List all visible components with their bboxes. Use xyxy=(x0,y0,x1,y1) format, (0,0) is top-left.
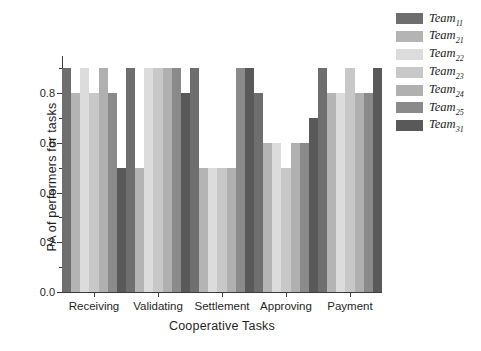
bar-receiving-team21 xyxy=(71,93,80,292)
bar-payment-team21 xyxy=(327,93,336,292)
x-tick-label: Receiving xyxy=(69,300,120,312)
bar-validating-team24 xyxy=(163,68,172,292)
bar-settlement-team31 xyxy=(245,68,254,292)
bar-payment-team25 xyxy=(364,93,373,292)
bar-approving-team23 xyxy=(281,168,290,292)
legend-item-team22[interactable]: Team22 xyxy=(396,46,481,64)
legend-swatch-team25 xyxy=(396,102,423,113)
legend-item-team23[interactable]: Team23 xyxy=(396,63,481,81)
legend-label-team22: Team22 xyxy=(429,46,464,63)
chart-legend: Team11Team21Team22Team23Team24Team25Team… xyxy=(396,10,481,135)
bar-receiving-team11 xyxy=(62,68,71,292)
y-tick-label: 0.8 xyxy=(40,87,55,99)
legend-label-team25: Team25 xyxy=(429,100,464,117)
bar-receiving-team31 xyxy=(117,168,126,292)
bar-settlement-team24 xyxy=(227,168,236,292)
bar-payment-team23 xyxy=(345,68,354,292)
y-tick-label: 0.0 xyxy=(40,286,55,298)
bar-approving-team21 xyxy=(263,143,272,292)
x-tick-label: Approving xyxy=(260,300,312,312)
bar-settlement-team11 xyxy=(190,68,199,292)
x-tick-label: Payment xyxy=(327,300,372,312)
plot-area: 0.00.20.40.60.8ReceivingValidatingSettle… xyxy=(62,56,382,292)
bar-chart-figure: PA of performers for tasks Cooperative T… xyxy=(0,0,481,351)
bar-receiving-team25 xyxy=(108,93,117,292)
legend-item-team25[interactable]: Team25 xyxy=(396,99,481,117)
legend-label-team24: Team24 xyxy=(429,82,464,99)
bar-validating-team31 xyxy=(181,93,190,292)
bar-validating-team22 xyxy=(144,68,153,292)
y-tick-label: 0.6 xyxy=(40,137,55,149)
legend-label-team21: Team21 xyxy=(429,28,464,45)
bar-payment-team31 xyxy=(373,68,382,292)
legend-swatch-team11 xyxy=(396,13,423,24)
x-tick-label: Validating xyxy=(133,300,183,312)
legend-item-team24[interactable]: Team24 xyxy=(396,81,481,99)
legend-label-team31: Team31 xyxy=(429,117,464,134)
bar-approving-team22 xyxy=(272,143,281,292)
bar-payment-team24 xyxy=(355,93,364,292)
x-tick-mark xyxy=(350,292,351,297)
bar-validating-team21 xyxy=(135,168,144,292)
legend-swatch-team24 xyxy=(396,85,423,96)
legend-item-team21[interactable]: Team21 xyxy=(396,28,481,46)
x-tick-mark xyxy=(94,292,95,297)
legend-swatch-team22 xyxy=(396,49,423,60)
x-axis-title: Cooperative Tasks xyxy=(62,319,382,333)
legend-item-team31[interactable]: Team31 xyxy=(396,117,481,135)
bar-settlement-team21 xyxy=(199,168,208,292)
bar-receiving-team24 xyxy=(99,68,108,292)
legend-swatch-team31 xyxy=(396,120,423,131)
legend-item-team11[interactable]: Team11 xyxy=(396,10,481,28)
bar-settlement-team25 xyxy=(236,68,245,292)
bar-settlement-team23 xyxy=(217,168,226,292)
bar-payment-team22 xyxy=(336,93,345,292)
x-tick-mark xyxy=(158,292,159,297)
x-tick-mark xyxy=(222,292,223,297)
bar-validating-team11 xyxy=(126,68,135,292)
bar-approving-team11 xyxy=(254,93,263,292)
legend-label-team23: Team23 xyxy=(429,64,464,81)
legend-label-team11: Team11 xyxy=(429,11,463,28)
bar-receiving-team22 xyxy=(80,68,89,292)
bar-approving-team25 xyxy=(300,143,309,292)
bar-validating-team25 xyxy=(172,68,181,292)
x-tick-mark xyxy=(286,292,287,297)
bar-settlement-team22 xyxy=(208,168,217,292)
bar-approving-team24 xyxy=(291,143,300,292)
y-tick-label: 0.2 xyxy=(40,236,55,248)
bar-receiving-team23 xyxy=(89,93,98,292)
y-tick-label: 0.4 xyxy=(40,187,55,199)
bar-approving-team31 xyxy=(309,118,318,292)
x-tick-label: Settlement xyxy=(195,300,250,312)
y-tick-mark xyxy=(57,292,62,293)
legend-swatch-team23 xyxy=(396,67,423,78)
bar-validating-team23 xyxy=(153,68,162,292)
y-axis-title: PA of performers for tasks xyxy=(45,47,59,307)
bar-payment-team11 xyxy=(318,68,327,292)
legend-swatch-team21 xyxy=(396,31,423,42)
